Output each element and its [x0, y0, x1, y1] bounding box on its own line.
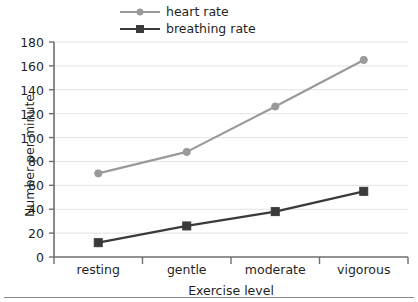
bottom-divider: [4, 297, 414, 298]
data-point-circle[interactable]: [95, 170, 102, 177]
x-axis-tick-label-moderate: moderate: [245, 262, 306, 277]
series-line-breathing-rate: [98, 191, 364, 242]
x-axis-tick-label-resting: resting: [77, 262, 120, 277]
data-point-circle[interactable]: [272, 103, 279, 110]
plot-area: [0, 0, 418, 302]
x-axis-tick-label-gentle: gentle: [167, 262, 207, 277]
x-axis-tick-label-vigorous: vigorous: [337, 262, 390, 277]
data-point-square[interactable]: [360, 187, 368, 195]
data-point-circle[interactable]: [360, 56, 367, 63]
line-chart: heart rate breathing rate Number per min…: [0, 0, 418, 302]
data-point-square[interactable]: [94, 239, 102, 247]
data-point-circle[interactable]: [183, 148, 190, 155]
data-point-square[interactable]: [271, 208, 279, 216]
data-point-square[interactable]: [183, 222, 191, 230]
series-line-heart-rate: [98, 60, 364, 173]
x-axis-title: Exercise level: [54, 283, 408, 298]
